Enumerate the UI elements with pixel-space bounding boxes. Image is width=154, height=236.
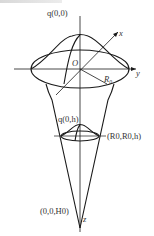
cone-load-diagram: q(0,0) x y O R0 q(0,h) (R0,R0,h) (0,0,H0…	[0, 0, 154, 236]
label-point-r0r0h: (R0,R0,h)	[107, 131, 141, 141]
label-origin: O	[72, 58, 78, 68]
x-axis-line	[56, 32, 118, 95]
label-apex: (0,0,H0)	[40, 206, 69, 216]
label-q0h: q(0,h)	[58, 114, 79, 124]
label-radius: R0	[103, 74, 112, 85]
label-y-axis: y	[135, 68, 140, 78]
label-x-axis: x	[118, 28, 123, 38]
label-q00: q(0,0)	[47, 8, 68, 18]
radius-line	[80, 69, 107, 84]
label-z-axis: z	[82, 214, 87, 224]
section-meridian	[75, 125, 80, 141]
cone-right-side	[80, 84, 114, 228]
